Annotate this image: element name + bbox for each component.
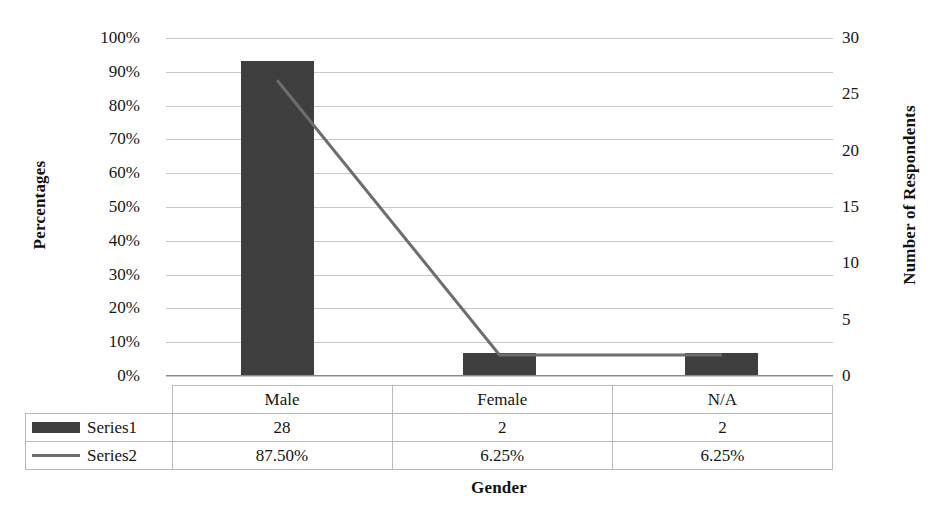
y-axis-title-right: Number of Respondents (900, 95, 920, 295)
y-axis-right-tick-label: 5 (842, 311, 902, 328)
data-table: MaleFemaleN/ASeries12822Series287.50%6.2… (25, 385, 833, 470)
y-axis-right-tick-label: 0 (842, 367, 902, 384)
table-cell: 2 (392, 414, 612, 442)
gridline-major (166, 376, 833, 377)
legend-line-swatch-icon (32, 454, 80, 457)
chart-container: Percentages Number of Respondents Gender… (0, 0, 934, 519)
y-axis-right-tick-label: 15 (842, 198, 902, 215)
y-axis-right-tick-label: 25 (842, 85, 902, 102)
table-corner-cell (26, 386, 173, 414)
y-axis-left-tick-label: 70% (48, 130, 140, 147)
y-axis-right-tick-label: 20 (842, 142, 902, 159)
table-column-header: Female (392, 386, 612, 414)
y-axis-right-tick-label: 10 (842, 254, 902, 271)
table-cell: 6.25% (392, 442, 612, 470)
legend-label: Series2 (87, 446, 137, 466)
y-axis-left-tick-label: 20% (48, 299, 140, 316)
y-axis-left-tick-label: 50% (48, 198, 140, 215)
legend-entry-cell[interactable]: Series2 (26, 442, 173, 470)
legend-entry-cell[interactable]: Series1 (26, 414, 173, 442)
y-axis-left-tick-label: 40% (48, 232, 140, 249)
table-row: Series12822 (26, 414, 833, 442)
y-axis-left-tick-label: 60% (48, 164, 140, 181)
y-axis-left-tick-label: 80% (48, 97, 140, 114)
table-cell: 87.50% (172, 442, 392, 470)
table-header-row: MaleFemaleN/A (26, 386, 833, 414)
y-axis-left-tick-label: 30% (48, 266, 140, 283)
plot-area (166, 38, 833, 376)
y-axis-left-tick-label: 10% (48, 333, 140, 350)
y-axis-right-ticks: 051015202530 (842, 0, 902, 519)
table-cell: 2 (612, 414, 832, 442)
legend-label: Series1 (87, 418, 137, 438)
table-row: Series287.50%6.25%6.25% (26, 442, 833, 470)
y-axis-left-tick-label: 100% (48, 29, 140, 46)
y-axis-title-left: Percentages (30, 125, 50, 285)
legend-entry: Series2 (32, 446, 172, 466)
x-axis-title: Gender (165, 478, 833, 498)
legend-entry: Series1 (32, 418, 172, 438)
y-axis-right-tick-label: 30 (842, 29, 902, 46)
table-cell: 6.25% (612, 442, 832, 470)
table-column-header: Male (172, 386, 392, 414)
y-axis-left-tick-label: 0% (48, 367, 140, 384)
line-series (166, 38, 833, 376)
table-cell: 28 (172, 414, 392, 442)
y-axis-left-tick-label: 90% (48, 63, 140, 80)
legend-bar-swatch-icon (32, 422, 80, 433)
table-column-header: N/A (612, 386, 832, 414)
series2-line (277, 80, 722, 355)
x-axis-line (166, 375, 833, 376)
